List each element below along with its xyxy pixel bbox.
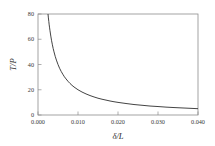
chart-svg: 0 20 40 60 80 0.000 0.010 0.020 0.030 0.…: [0, 0, 215, 146]
x-tick-label-4: 0.040: [191, 118, 205, 125]
x-tick-label-1: 0.010: [71, 118, 85, 125]
plot-frame: [38, 14, 198, 115]
x-tick-label-0: 0.000: [31, 118, 45, 125]
y-tick-label-60: 60: [28, 35, 34, 42]
data-curve: [48, 14, 198, 109]
y-tick-label-20: 20: [28, 86, 34, 93]
y-axis-title: T/P: [8, 58, 18, 71]
figure-canvas: 0 20 40 60 80 0.000 0.010 0.020 0.030 0.…: [0, 0, 215, 146]
x-tick-label-3: 0.030: [151, 118, 165, 125]
y-tick-label-80: 80: [28, 10, 34, 17]
x-tick-label-2: 0.020: [111, 118, 125, 125]
y-tick-label-40: 40: [28, 61, 34, 68]
x-axis-title: δ/L: [112, 131, 123, 141]
x-tickmarks: [38, 112, 198, 116]
y-tickmarks: [38, 14, 42, 115]
